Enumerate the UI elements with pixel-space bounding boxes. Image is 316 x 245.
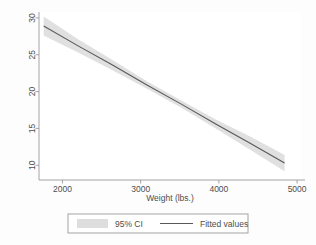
y-axis-tick-labels: 1015202530 — [27, 13, 37, 170]
x-tick-label: 4000 — [209, 184, 228, 194]
stata-regression-figure: 1015202530 2000300040005000 Weight (lbs.… — [0, 0, 316, 245]
y-tick-label: 25 — [27, 50, 37, 60]
legend-label-fitted-values: Fitted values — [200, 219, 248, 229]
x-tick-label: 2000 — [53, 184, 72, 194]
legend-swatch-95-ci — [77, 219, 108, 228]
y-tick-label: 15 — [27, 123, 37, 133]
y-tick-label: 20 — [27, 87, 37, 97]
y-tick-label: 30 — [27, 13, 37, 23]
x-axis-ticks — [62, 180, 297, 184]
chart-canvas: 1015202530 2000300040005000 Weight (lbs.… — [0, 0, 316, 245]
x-axis-title: Weight (lbs.) — [146, 193, 194, 203]
legend: 95% CI Fitted values — [68, 214, 248, 233]
legend-label-95-ci: 95% CI — [115, 219, 143, 229]
x-tick-label: 5000 — [288, 184, 307, 194]
y-tick-label: 10 — [27, 160, 37, 170]
